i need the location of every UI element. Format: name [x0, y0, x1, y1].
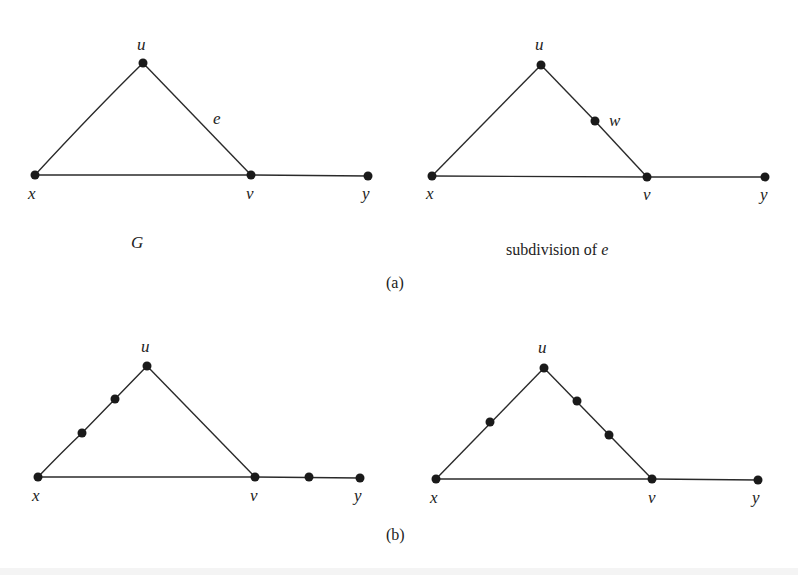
graph-g: u x v y e G — [27, 35, 373, 252]
edge-xv — [432, 176, 647, 177]
vertex-y — [364, 172, 373, 181]
edge-uv-e — [143, 63, 251, 175]
vertex-label-y: y — [758, 185, 768, 204]
vertex-y — [356, 474, 365, 483]
vertex-label-y: y — [750, 488, 760, 507]
vertex-label-u: u — [535, 35, 544, 54]
vertex-label-y: y — [352, 486, 362, 505]
caption-prefix: subdivision of — [506, 241, 601, 258]
vertex-y — [754, 476, 763, 485]
part-label-a: (a) — [386, 274, 404, 292]
vertex-label-v: v — [250, 486, 258, 505]
edge-vy — [652, 479, 758, 480]
subdivision-vertex — [486, 418, 495, 427]
vertex-v — [643, 173, 652, 182]
vertex-x — [432, 475, 441, 484]
subdivision-vertex — [78, 429, 87, 438]
vertex-label-v: v — [246, 184, 254, 203]
vertex-x — [428, 172, 437, 181]
vertex-label-w: w — [609, 111, 621, 130]
vertex-u — [537, 61, 546, 70]
subdivision-vertex — [111, 395, 120, 404]
subdivision-vertex — [305, 473, 314, 482]
part-label-b: (b) — [386, 526, 405, 544]
subdivision-vertex — [573, 397, 582, 406]
vertex-label-v: v — [643, 185, 651, 204]
vertex-label-v: v — [648, 488, 656, 507]
vertex-label-x: x — [31, 486, 40, 505]
graph-subdivision-of-e: u w x v y subdivision of e — [425, 35, 770, 258]
subdivision-vertex — [605, 431, 614, 440]
graph-b-right: u x v y — [429, 338, 763, 507]
page-edge-strip — [0, 568, 798, 575]
vertex-label-x: x — [27, 184, 36, 203]
edge-vy — [251, 175, 368, 176]
edge-uv — [544, 368, 652, 479]
edge-xu — [432, 65, 541, 176]
edge-label-e: e — [213, 109, 221, 128]
vertex-y — [761, 173, 770, 182]
vertex-label-x: x — [429, 488, 438, 507]
vertex-label-u: u — [137, 35, 146, 54]
graph-caption-g: G — [131, 233, 143, 252]
vertex-v — [247, 171, 256, 180]
edge-uv — [147, 366, 255, 477]
edge-wv — [595, 121, 647, 177]
vertex-x — [31, 171, 40, 180]
edge-uw — [541, 65, 595, 121]
vertex-u — [139, 59, 148, 68]
edge-xu — [35, 63, 143, 175]
vertex-u — [540, 364, 549, 373]
graph-caption-subdivision: subdivision of e — [506, 241, 608, 258]
vertex-w — [591, 117, 600, 126]
vertex-label-x: x — [425, 184, 434, 203]
vertex-label-u: u — [538, 338, 547, 357]
vertex-label-y: y — [360, 184, 370, 203]
figure-canvas: u x v y e G u w x v y subdivision of e (… — [0, 0, 798, 575]
graph-b-left: u x v y — [31, 337, 365, 505]
vertex-v — [648, 475, 657, 484]
edge-xu — [38, 366, 147, 477]
caption-var-e: e — [601, 241, 608, 258]
vertex-label-u: u — [141, 337, 150, 356]
vertex-u — [143, 362, 152, 371]
vertex-x — [34, 473, 43, 482]
vertex-v — [251, 473, 260, 482]
